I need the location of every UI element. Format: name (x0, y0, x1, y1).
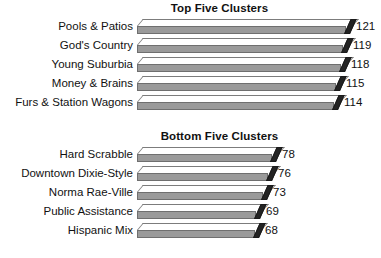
bar (137, 95, 341, 111)
bar-front-face (137, 192, 263, 200)
bar (137, 223, 262, 239)
bar (137, 57, 348, 73)
category-label: Furs & Station Wagons (0, 93, 133, 112)
bar-value-label: 78 (282, 145, 295, 164)
bar-value-label: 115 (346, 74, 364, 93)
bar-top-face (137, 185, 276, 192)
category-label: Hard Scrabble (0, 145, 133, 164)
chart-title: Bottom Five Clusters (0, 128, 381, 145)
category-label: Young Suburbia (0, 55, 133, 74)
bar-top-face (137, 76, 349, 83)
bar-row: God's Country119 (0, 36, 381, 55)
bar-top-face (137, 57, 354, 64)
bar-rows: Hard Scrabble78Downtown Dixie-Style76Nor… (0, 145, 381, 240)
category-label: Public Assistance (0, 202, 133, 221)
bar-top-face (137, 204, 269, 211)
chart-title: Top Five Clusters (0, 0, 381, 17)
bar-top-face (137, 38, 356, 45)
category-label: God's Country (0, 36, 133, 55)
bar-value-label: 118 (351, 55, 369, 74)
bar-value-label: 121 (356, 17, 375, 36)
bar-top-face (137, 95, 347, 102)
category-label: Norma Rae-Ville (0, 183, 133, 202)
chart-page: Top Five Clusters Pools & Patios121God's… (0, 0, 381, 258)
bar-top-face (137, 19, 359, 26)
bottom-five-clusters-chart: Bottom Five Clusters Hard Scrabble78Down… (0, 128, 381, 258)
bar-value-label: 68 (265, 221, 278, 240)
bar-rows: Pools & Patios121God's Country119Young S… (0, 17, 381, 112)
bar-row: Norma Rae-Ville73 (0, 183, 381, 202)
bar-top-face (137, 223, 268, 230)
bar-front-face (137, 173, 268, 181)
bar-row: Hard Scrabble78 (0, 145, 381, 164)
category-label: Hispanic Mix (0, 221, 133, 240)
bar-value-label: 76 (278, 164, 291, 183)
bar (137, 204, 263, 220)
bar-row: Pools & Patios121 (0, 17, 381, 36)
bar-front-face (137, 83, 336, 91)
bar (137, 166, 275, 182)
bar-front-face (137, 45, 343, 53)
bar-row: Public Assistance69 (0, 202, 381, 221)
bar (137, 185, 270, 201)
top-five-clusters-chart: Top Five Clusters Pools & Patios121God's… (0, 0, 381, 126)
bar-row: Money & Brains115 (0, 74, 381, 93)
bar-row: Furs & Station Wagons114 (0, 93, 381, 112)
bar-value-label: 114 (344, 93, 362, 112)
bar-value-label: 73 (273, 183, 286, 202)
bar-front-face (137, 211, 256, 219)
bar (137, 19, 353, 35)
bar (137, 76, 343, 92)
bar-row: Downtown Dixie-Style76 (0, 164, 381, 183)
bar-value-label: 69 (266, 202, 279, 221)
bar-front-face (137, 64, 341, 72)
category-label: Money & Brains (0, 74, 133, 93)
bar-row: Hispanic Mix68 (0, 221, 381, 240)
bar-front-face (137, 26, 346, 34)
bar (137, 38, 350, 54)
bar (137, 147, 279, 163)
bar-row: Young Suburbia118 (0, 55, 381, 74)
category-label: Pools & Patios (0, 17, 133, 36)
bar-front-face (137, 102, 334, 110)
bar-top-face (137, 166, 281, 173)
category-label: Downtown Dixie-Style (0, 164, 133, 183)
bar-top-face (137, 147, 285, 154)
bar-value-label: 119 (353, 36, 371, 55)
bar-front-face (137, 154, 272, 162)
bar-front-face (137, 230, 255, 238)
